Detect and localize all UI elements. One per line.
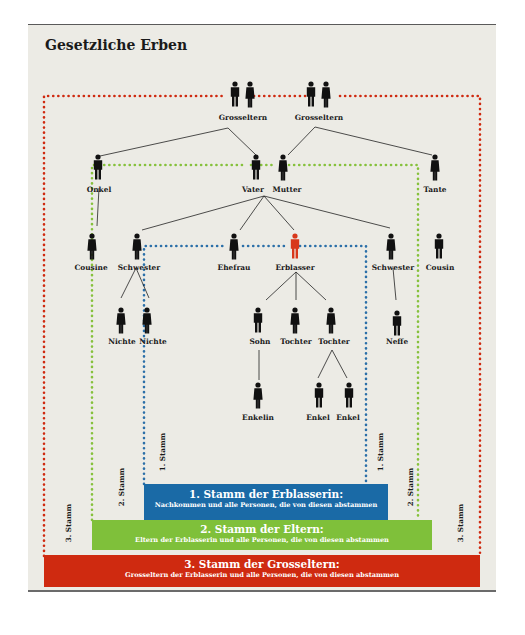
ehefrau-icon (229, 233, 238, 259)
label-neffe: Neffe (386, 337, 409, 346)
side-label-stamm2-right: 2. Stamm (406, 467, 415, 506)
stamm3-band: 3. Stamm der Grosseltern: Grosseltern de… (44, 555, 480, 587)
tante-icon (430, 154, 439, 180)
stamm1-band: 1. Stamm der Erblasserin: Nachkommen und… (144, 484, 388, 520)
grossvater-paternal-icon (231, 81, 239, 106)
label-tochter-2: Tochter (318, 337, 350, 346)
enkel-1-icon (315, 382, 323, 407)
sohn-icon (254, 307, 262, 332)
schwester-left-icon (132, 233, 141, 259)
enkelin-icon (253, 382, 262, 408)
neffe-icon (393, 310, 401, 335)
label-ehefrau: Ehefrau (218, 263, 252, 272)
stamm1-description: Nachkommen und alle Personen, die von di… (144, 501, 388, 510)
grossmutter-maternal-icon (321, 81, 330, 107)
label-grosseltern-right: Grosseltern (295, 113, 344, 122)
label-onkel: Onkel (87, 185, 112, 194)
tochter-2-icon (326, 307, 335, 333)
label-nichte-1: Nichte (108, 337, 136, 346)
label-grosseltern-left: Grosseltern (219, 113, 268, 122)
onkel-icon (94, 154, 102, 179)
vater-icon (252, 154, 260, 179)
mutter-icon (278, 154, 287, 180)
stamm2-description: Eltern der Erblasserin und alle Personen… (92, 536, 432, 545)
label-mutter: Mutter (273, 185, 302, 194)
label-erblasser: Erblasser (275, 263, 314, 272)
label-enkel-1: Enkel (306, 413, 330, 422)
stamm1-heading: 1. Stamm der Erblasserin: (144, 488, 388, 501)
stamm3-heading: 3. Stamm der Grosseltern: (44, 558, 480, 571)
stamm1-boundary (144, 246, 366, 484)
label-tante: Tante (423, 185, 446, 194)
side-label-stamm3-right: 3. Stamm (456, 503, 465, 542)
enkel-2-icon (345, 382, 353, 407)
label-enkelin: Enkelin (242, 413, 274, 422)
label-schwester-left: Schwester (118, 263, 161, 272)
label-enkel-2: Enkel (336, 413, 360, 422)
stamm2-band: 2. Stamm der Eltern: Eltern der Erblasse… (92, 520, 432, 550)
side-label-stamm1-left: 1. Stamm (158, 432, 167, 471)
label-schwester-right: Schwester (372, 263, 415, 272)
label-nichte-2: Nichte (139, 337, 167, 346)
label-cousin: Cousin (426, 263, 455, 272)
label-sohn: Sohn (249, 337, 271, 346)
label-cousine: Cousine (74, 263, 108, 272)
erblasser-icon (291, 233, 299, 258)
label-vater: Vater (241, 185, 264, 194)
nichte-1-icon (116, 307, 125, 333)
stamm2-heading: 2. Stamm der Eltern: (92, 523, 432, 536)
side-label-stamm3-left: 3. Stamm (64, 503, 73, 542)
side-label-stamm2-left: 2. Stamm (117, 467, 126, 506)
grossvater-maternal-icon (307, 81, 315, 106)
schwester-right-icon (386, 233, 395, 259)
stamm3-description: Grosseltern der Erblasserin und alle Per… (44, 571, 480, 580)
cousin-icon (435, 233, 443, 258)
side-label-stamm1-right: 1. Stamm (376, 432, 385, 471)
tochter-1-icon (290, 307, 299, 333)
grossmutter-paternal-icon (245, 81, 254, 107)
label-tochter-1: Tochter (280, 337, 312, 346)
